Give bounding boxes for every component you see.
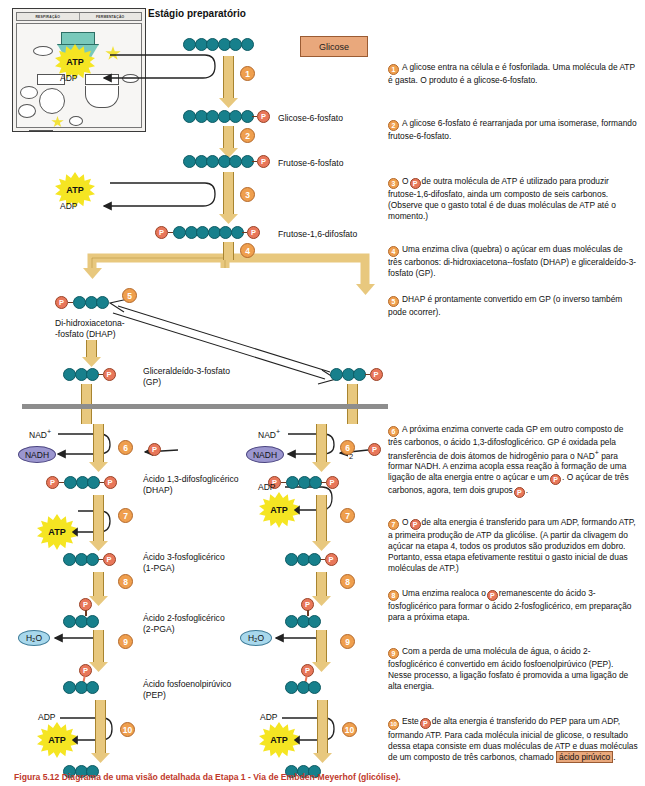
phosphate-inline-icon: P bbox=[410, 519, 421, 530]
adp-label-step7-right: ADP bbox=[258, 482, 275, 492]
step-number-2: 2 bbox=[240, 128, 255, 143]
adp-label-step3: ADP bbox=[60, 201, 77, 211]
note-bullet-1: 1 bbox=[388, 64, 399, 75]
inset-star-atp-2 bbox=[51, 116, 64, 128]
step-number-3: 3 bbox=[240, 187, 255, 202]
phosphate-bond bbox=[98, 559, 103, 561]
inset-star-atp-1 bbox=[105, 46, 121, 61]
inset-node-nadh-fadh-1 bbox=[20, 86, 38, 99]
note-5: 5DHAP é prontamente convertido em GP (o … bbox=[388, 294, 638, 318]
page-title: Estágio preparatório bbox=[148, 8, 246, 19]
molecule-pep-right bbox=[285, 681, 320, 694]
adp-label-step10-right: ADP bbox=[260, 712, 277, 722]
atp-label: ATP bbox=[66, 185, 83, 195]
note-7: 7OPde alta energia é transferido para um… bbox=[388, 517, 638, 573]
atp-label: ATP bbox=[270, 505, 287, 515]
water-oval-right: H₂O bbox=[240, 630, 272, 646]
phosphate-bond bbox=[98, 374, 103, 376]
figure-caption: Figura 5.12 Diagrama de uma visão detalh… bbox=[14, 772, 639, 782]
note-bullet-5: 5 bbox=[388, 296, 399, 307]
note-bullet-2: 2 bbox=[388, 120, 399, 131]
molecule-bpg-right: P P bbox=[268, 476, 339, 489]
molecule-2pga-right bbox=[285, 615, 320, 628]
inset-fermentation-cup bbox=[85, 86, 119, 108]
inset-node-krebs bbox=[39, 88, 65, 114]
phosphate-group: P bbox=[370, 368, 383, 381]
molecule-label-g6p: Glicose-6-fosfato bbox=[278, 113, 343, 124]
highlight-acido-piruvico: ácido pirúvico bbox=[556, 751, 613, 763]
step-number-5: 5 bbox=[122, 288, 137, 303]
note-text-7b: de alta energia é transferido para um AD… bbox=[388, 517, 636, 573]
note-bullet-9: 9 bbox=[388, 648, 399, 659]
phosphate-inline-icon: P bbox=[550, 474, 561, 485]
phosphate-group: P bbox=[326, 476, 339, 489]
molecule-3pga-right: P bbox=[285, 553, 338, 566]
note-text-5: DHAP é prontamente convertido em GP (o i… bbox=[388, 294, 622, 317]
note-text-10c: . bbox=[613, 752, 615, 762]
adp-label-step1: ADP bbox=[60, 73, 77, 83]
phosphate-bond bbox=[365, 374, 370, 376]
inset-node-o2 bbox=[69, 116, 83, 126]
phosphate-group: P bbox=[103, 553, 116, 566]
atp-starburst: ATP bbox=[37, 514, 77, 550]
phosphate-group: P bbox=[257, 110, 270, 123]
molecule-gp-right: P bbox=[330, 368, 383, 381]
note-text-9: Com a perda de uma molécula de água, o á… bbox=[388, 646, 628, 691]
glicose-label-box: Glicose bbox=[300, 36, 368, 57]
phosphate-bond bbox=[321, 482, 326, 484]
phosphate-group-free-left: P bbox=[148, 443, 161, 456]
note-bullet-8: 8 bbox=[388, 590, 399, 601]
molecule-pep-left bbox=[63, 681, 98, 694]
atp-label: ATP bbox=[48, 527, 65, 537]
step-number-10-right: 10 bbox=[342, 722, 357, 737]
atp-starburst: ATP bbox=[259, 722, 299, 758]
note-bullet-3: 3 bbox=[388, 178, 399, 189]
note-text-6d: . bbox=[526, 485, 528, 495]
inset-node-pyruvate-left bbox=[33, 46, 53, 56]
split-arrowhead-right bbox=[356, 284, 375, 295]
carbon-ball bbox=[86, 681, 99, 694]
note-text-10a: Este bbox=[402, 716, 419, 726]
note-text-6a: A próxima enzima converte cada GP em out… bbox=[388, 424, 623, 461]
molecule-label-dhap: Di-hidroxiacetona- -fosfato (DHAP) bbox=[55, 318, 125, 339]
phosphate-bond bbox=[320, 559, 325, 561]
nadh-oval-right: NADH bbox=[246, 446, 284, 463]
phosphate-group: P bbox=[104, 476, 117, 489]
note-bullet-7: 7 bbox=[388, 519, 399, 530]
molecule-label-pep-left: Ácido fosfoenolpirúvico (PEP) bbox=[143, 679, 231, 700]
atp-label: ATP bbox=[270, 735, 287, 745]
carbon-ball bbox=[308, 681, 321, 694]
molecule-f6p: P bbox=[183, 155, 270, 168]
nad-plus-label-left: NAD+ bbox=[29, 428, 51, 440]
phosphate-bond bbox=[99, 482, 104, 484]
nad-superscript: + bbox=[276, 428, 280, 436]
phosphate-group-free-right: P bbox=[368, 443, 381, 456]
note-2: 2A glicose 6-fosfato é rearranjada por u… bbox=[388, 118, 638, 142]
inset-header-fermentacao: FERMENTAÇÃO bbox=[79, 13, 142, 20]
phosphate-inline-icon: P bbox=[420, 718, 431, 729]
phosphate-group: P bbox=[155, 226, 168, 239]
step-number-1: 1 bbox=[240, 66, 255, 81]
water-oval-left: H₂O bbox=[18, 630, 50, 646]
note-text-3b: de outra molécula de ATP é utilizado par… bbox=[388, 176, 616, 221]
molecule-g6p: P bbox=[183, 110, 270, 123]
molecule-label-f16dp: Frutose-1,6-difosfato bbox=[278, 229, 357, 240]
inset-header: RESPIRAÇÃO FERMENTAÇÃO bbox=[16, 12, 142, 21]
glycolysis-figure: RESPIRAÇÃO FERMENTAÇÃO Estágio preparató… bbox=[0, 0, 645, 786]
step-number-7-left: 7 bbox=[118, 508, 133, 523]
molecule-dhap: P bbox=[55, 296, 108, 309]
molecule-gp-left: P bbox=[63, 368, 116, 381]
note-4: 4Uma enzima cliva (quebra) o açúcar em d… bbox=[388, 244, 638, 279]
note-1: 1A glicose entra na célula e é fosforila… bbox=[388, 62, 638, 86]
atp-starburst: ATP bbox=[37, 722, 77, 758]
note-6: 6A próxima enzima converte cada GP em ou… bbox=[388, 424, 638, 498]
inset-node-nadh-fadh-2 bbox=[18, 104, 36, 118]
note-text-4: Uma enzima cliva (quebra) o açúcar em du… bbox=[388, 244, 636, 278]
note-3: 3OPde outra molécula de ATP é utilizado … bbox=[388, 176, 638, 222]
phosphate-group: P bbox=[103, 368, 116, 381]
nad-text: NAD bbox=[29, 430, 47, 440]
molecule-label-f6p: Frutose-6-fosfato bbox=[278, 158, 343, 169]
note-sup-6: + bbox=[595, 449, 599, 456]
note-text-7a: O bbox=[402, 517, 409, 527]
inset-node-nadh-right bbox=[122, 74, 139, 83]
